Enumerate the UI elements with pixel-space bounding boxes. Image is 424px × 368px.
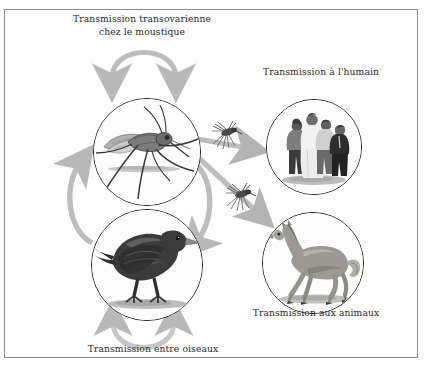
label-line-1: Transmission aux animaux [226, 307, 406, 320]
label-line-1: Transmission transovarienne [52, 13, 232, 26]
crow-photo-icon [92, 210, 202, 320]
node-horse [262, 212, 364, 314]
label-line-2: chez le moustique [52, 26, 232, 39]
label-line-1: Transmission à l'humain [236, 66, 406, 79]
node-humans [266, 99, 362, 195]
label-transmission-transovarienne: Transmission transovarienne chez le mous… [52, 13, 232, 38]
label-transmission-oiseaux: Transmission entre oiseaux [58, 343, 248, 356]
node-mosquito [93, 98, 201, 206]
label-transmission-animaux: Transmission aux animaux [226, 307, 406, 320]
diagram-frame [4, 9, 418, 358]
label-transmission-humain: Transmission à l'humain [236, 66, 406, 79]
people-group-photo-icon [267, 100, 361, 194]
mosquito-photo-icon [94, 99, 200, 205]
horse-photo-icon [263, 213, 363, 313]
diagram-page: Transmission transovarienne chez le mous… [0, 0, 424, 368]
node-bird [91, 209, 203, 321]
arrow-transovarial [112, 53, 176, 81]
mosquito-vector-icon [223, 180, 257, 214]
arrow-bird-to-mosquito [70, 163, 92, 243]
mosquito-vector-icon [209, 118, 243, 152]
label-line-1: Transmission entre oiseaux [58, 343, 248, 356]
